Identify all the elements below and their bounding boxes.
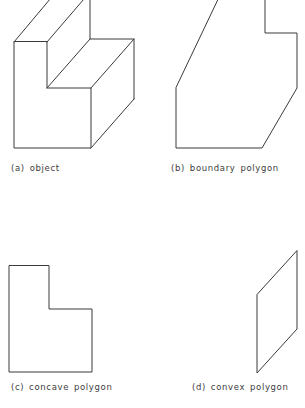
- object-edge-top-left-receding: [14, 0, 56, 42]
- object-edge-notch-top-receding: [47, 0, 90, 42]
- concave-polygon-path: [9, 266, 92, 372]
- figure-panel-concave-polygon: (c) concave polygon: [0, 228, 152, 408]
- boundary-polygon-drawing: [152, 0, 305, 180]
- figure-panel-object: (a) object: [0, 0, 152, 180]
- object-front-face-path: [14, 42, 91, 148]
- object-drawing: [0, 0, 152, 180]
- figure-panel-boundary-polygon: (b) boundary polygon: [152, 0, 305, 180]
- object-edge-mid-receding: [91, 39, 134, 88]
- boundary-polygon-path: [176, 0, 297, 148]
- object-edge-bottom-receding: [91, 99, 134, 148]
- object-edge-notch-floor-receding: [47, 39, 90, 88]
- concave-polygon-drawing: [0, 228, 152, 408]
- object-right-face-path: [90, 0, 134, 99]
- caption-convex-polygon: (d) convex polygon: [192, 383, 289, 392]
- figure-plate: (a) object (b) boundary polygon (c) conc…: [0, 0, 305, 408]
- figure-panel-convex-polygon: (d) convex polygon: [152, 228, 305, 408]
- caption-object: (a) object: [11, 164, 60, 173]
- convex-polygon-path: [257, 251, 297, 373]
- caption-boundary-polygon: (b) boundary polygon: [171, 164, 279, 173]
- caption-concave-polygon: (c) concave polygon: [11, 383, 112, 392]
- convex-polygon-drawing: [152, 228, 305, 408]
